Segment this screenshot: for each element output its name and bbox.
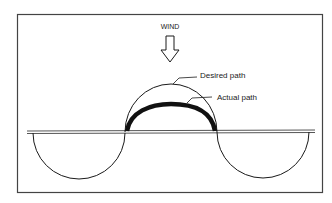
desired-path-arc	[125, 84, 217, 132]
wind-path-diagram: WIND Desired path Actual path	[0, 0, 332, 203]
actual-path-leader	[187, 97, 212, 103]
desired-path-leader	[173, 77, 197, 84]
actual-path-arc	[127, 104, 215, 131]
wind-label: WIND	[161, 23, 180, 30]
wind-arrow-icon	[161, 36, 179, 62]
desired-path-label: Desired path	[200, 71, 245, 80]
right-loop	[217, 132, 309, 178]
baseline	[27, 130, 315, 134]
actual-path-label: Actual path	[217, 93, 257, 102]
left-loop	[33, 133, 125, 179]
